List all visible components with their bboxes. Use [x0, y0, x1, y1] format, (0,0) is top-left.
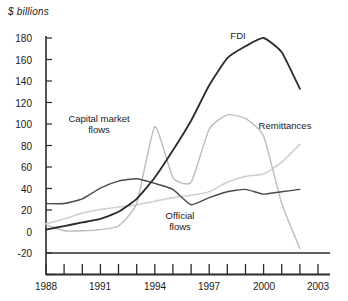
plot-area — [0, 0, 348, 301]
series-line-remittances — [46, 144, 300, 223]
x-axis-ticks — [46, 264, 318, 275]
series-line-official-flows — [46, 179, 300, 205]
chart-figure: $ billions 180 160 140 120 100 80 60 40 … — [0, 0, 348, 301]
y-axis-ticks — [46, 38, 52, 275]
series-line-capital-market-flows — [46, 115, 300, 249]
